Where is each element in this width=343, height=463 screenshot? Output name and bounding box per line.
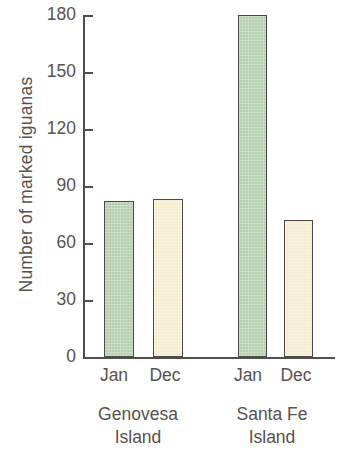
- group-label-line1: Santa Fe: [212, 403, 332, 426]
- y-tick-mark: [84, 72, 93, 74]
- bar-santafe-jan: [238, 15, 267, 357]
- bar-santafe-dec: [284, 220, 313, 357]
- y-tick-label: 150: [47, 63, 76, 81]
- bar-chart-figure: Number of marked iguanas 180 150 120 90 …: [0, 0, 343, 463]
- x-axis-line: [83, 357, 335, 359]
- plot-area: 180 150 120 90 60 30 0: [83, 15, 335, 357]
- y-tick-label: 120: [47, 120, 76, 138]
- bar-genovesa-dec: [153, 199, 183, 357]
- group-label-line2: Island: [212, 426, 332, 449]
- y-tick-label: 90: [57, 177, 76, 195]
- y-tick-mark: [84, 129, 93, 131]
- y-tick-mark: [84, 300, 93, 302]
- y-tick-label: 0: [66, 348, 76, 366]
- y-axis-title: Number of marked iguanas: [16, 15, 37, 355]
- y-tick-label: 60: [57, 234, 76, 252]
- group-label-line2: Island: [78, 426, 198, 449]
- y-tick-label: 30: [57, 291, 76, 309]
- y-tick-mark: [84, 243, 93, 245]
- y-tick-mark: [84, 186, 93, 188]
- bar-genovesa-jan: [104, 201, 134, 357]
- x-label-genovesa-dec: Dec: [134, 367, 196, 385]
- group-label-santafe: Santa Fe Island: [212, 403, 332, 449]
- y-tick-label: 180: [47, 6, 76, 24]
- x-label-santafe-dec: Dec: [265, 367, 327, 385]
- group-label-genovesa: Genovesa Island: [78, 403, 198, 449]
- y-tick-mark: [84, 15, 93, 17]
- group-label-line1: Genovesa: [78, 403, 198, 426]
